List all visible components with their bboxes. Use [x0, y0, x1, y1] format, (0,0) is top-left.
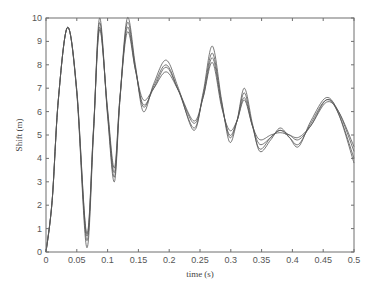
y-tick-label: 3 [37, 177, 42, 187]
x-tick-label: 0.25 [191, 255, 209, 265]
line-chart: 00.050.10.150.20.250.30.350.40.450.5 012… [0, 0, 376, 296]
y-tick-label: 5 [37, 130, 42, 140]
x-axis-ticks: 00.050.10.150.20.250.30.350.40.450.5 [43, 18, 360, 265]
series-line-3 [46, 27, 354, 252]
y-tick-label: 2 [37, 200, 42, 210]
x-tick-label: 0.5 [348, 255, 361, 265]
y-tick-label: 6 [37, 107, 42, 117]
series-line-1 [46, 17, 354, 252]
y-tick-label: 9 [37, 36, 42, 46]
y-axis-ticks: 012345678910 [32, 13, 354, 257]
y-tick-label: 4 [37, 153, 42, 163]
x-tick-label: 0.45 [314, 255, 332, 265]
y-axis-label: Shift (m) [14, 119, 24, 152]
x-tick-label: 0.3 [225, 255, 238, 265]
plot-lines [46, 17, 354, 252]
x-tick-label: 0 [43, 255, 48, 265]
x-tick-label: 0.1 [101, 255, 114, 265]
x-tick-label: 0.05 [68, 255, 86, 265]
y-tick-label: 0 [37, 247, 42, 257]
series-line-2 [46, 22, 354, 252]
series-line-4 [46, 27, 354, 252]
y-tick-label: 1 [37, 224, 42, 234]
y-tick-label: 8 [37, 60, 42, 70]
x-tick-label: 0.15 [130, 255, 148, 265]
y-tick-label: 10 [32, 13, 42, 23]
x-tick-label: 0.4 [286, 255, 299, 265]
x-tick-label: 0.2 [163, 255, 176, 265]
y-tick-label: 7 [37, 83, 42, 93]
x-axis-label: time (s) [186, 269, 214, 279]
plot-frame [46, 18, 354, 252]
x-tick-label: 0.35 [253, 255, 271, 265]
